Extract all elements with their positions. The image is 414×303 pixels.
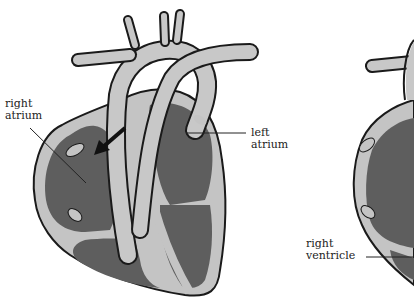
label-left-atrium-line2: atrium bbox=[251, 139, 288, 151]
label-right-ventricle-line2: ventricle bbox=[306, 250, 355, 262]
right-heart bbox=[354, 40, 414, 285]
label-left-atrium: left atrium bbox=[251, 127, 288, 151]
left-heart bbox=[30, 14, 250, 296]
label-right-atrium: right atrium bbox=[5, 98, 42, 122]
label-right-atrium-line2: atrium bbox=[5, 110, 42, 122]
label-right-ventricle: right ventricle bbox=[306, 238, 355, 262]
